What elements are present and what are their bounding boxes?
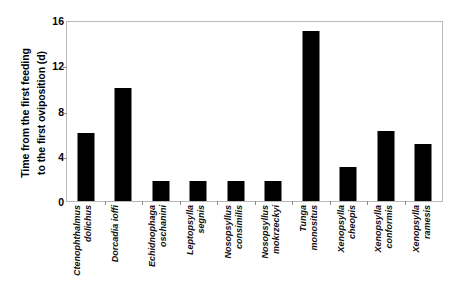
y-axis-tick-label: 0: [46, 197, 64, 207]
y-axis-title: Time from the first feeding to the first…: [4, 18, 48, 208]
x-axis-category-label-line: Echidnophaga: [147, 205, 158, 305]
x-axis-category-label-line: segnis: [196, 205, 207, 305]
x-axis-label-slot: Dorcadia ioffi: [104, 205, 142, 305]
bar[interactable]: [115, 88, 132, 201]
x-axis-category-label: Xenopsyllacheopis: [336, 205, 362, 305]
bar[interactable]: [340, 167, 357, 201]
x-axis-category-label-line: Xenopsylla: [336, 205, 347, 305]
bar[interactable]: [227, 181, 244, 201]
x-axis-category-label-line: monositus: [309, 205, 320, 305]
y-axis-tick-mark: [63, 67, 67, 68]
bar[interactable]: [77, 133, 94, 201]
bar[interactable]: [265, 181, 282, 201]
x-axis-category-label: Echidnophagaoschanini: [147, 205, 173, 305]
bar-chart-figure: Time from the first feeding to the first…: [0, 0, 470, 305]
x-axis-category-label-line: oschanini: [158, 205, 169, 305]
x-axis-category-label-line: consimilis: [234, 205, 245, 305]
x-axis-category-label-line: cheopis: [347, 205, 358, 305]
x-axis-category-label: Nosopsyllusconsimilis: [223, 205, 249, 305]
x-axis-label-slot: Xenopsyllaconformis: [368, 205, 406, 305]
x-axis-category-label-line: conformis: [384, 205, 395, 305]
bar-slot: [217, 22, 255, 201]
x-axis-label-slot: Tungamonositus: [292, 205, 330, 305]
y-axis-tick-label: 8: [46, 107, 64, 117]
x-axis-label-slot: Xenopsyllaramesis: [405, 205, 443, 305]
x-axis-category-label-line: dolichus: [83, 205, 94, 305]
x-axis-category-labels: CtenophthalmusdolichusDorcadia ioffiEchi…: [66, 205, 443, 305]
x-axis-category-label-line: Nosopsyllus: [223, 205, 234, 305]
bar[interactable]: [415, 144, 432, 201]
plot-area: [66, 21, 443, 202]
bar-slot: [367, 22, 405, 201]
x-axis-category-label: Nosopsyllusmokrzeckyi: [260, 205, 286, 305]
x-axis-category-label-line: Leptopsylla: [185, 205, 196, 305]
bar[interactable]: [377, 131, 394, 201]
x-axis-category-label-line: Dorcadia ioffi: [110, 205, 121, 305]
y-axis-tick-mark: [63, 158, 67, 159]
bar-slot: [105, 22, 143, 201]
y-axis-tick-label: 4: [46, 152, 64, 162]
y-axis-tick-label: 16: [46, 16, 64, 26]
x-axis-category-label-line: ramesis: [422, 205, 433, 305]
x-axis-category-label-line: Tunga: [298, 205, 309, 305]
x-axis-category-label-line: Ctenophthalmus: [72, 205, 83, 305]
x-axis-label-slot: Nosopsyllusmokrzeckyi: [255, 205, 293, 305]
y-axis-tick-mark: [63, 113, 67, 114]
bar[interactable]: [152, 181, 169, 201]
bar-series: [67, 22, 442, 201]
x-axis-category-label: Xenopsyllaramesis: [411, 205, 437, 305]
bar-slot: [142, 22, 180, 201]
x-axis-category-label-line: mokrzeckyi: [271, 205, 282, 305]
x-axis-category-label: Ctenophthalmusdolichus: [72, 205, 98, 305]
x-axis-label-slot: Xenopsyllacheopis: [330, 205, 368, 305]
bar[interactable]: [190, 181, 207, 201]
bar-slot: [67, 22, 105, 201]
x-axis-category-label-line: Nosopsyllus: [260, 205, 271, 305]
y-axis-tick-labels: 0481216: [44, 0, 64, 305]
x-axis-label-slot: Ctenophthalmusdolichus: [66, 205, 104, 305]
bar-slot: [405, 22, 443, 201]
y-axis-tick-label: 12: [46, 61, 64, 71]
bar-slot: [180, 22, 218, 201]
x-axis-label-slot: Nosopsyllusconsimilis: [217, 205, 255, 305]
x-axis-category-label: Leptopsyllasegnis: [185, 205, 211, 305]
bar-slot: [330, 22, 368, 201]
x-axis-category-label-line: Xenopsylla: [373, 205, 384, 305]
bar-slot: [255, 22, 293, 201]
x-axis-category-label: Dorcadia ioffi: [110, 205, 136, 305]
x-axis-label-slot: Leptopsyllasegnis: [179, 205, 217, 305]
x-axis-category-label: Xenopsyllaconformis: [373, 205, 399, 305]
bar[interactable]: [302, 31, 319, 201]
x-axis-category-label-line: Xenopsylla: [411, 205, 422, 305]
bar-slot: [292, 22, 330, 201]
x-axis-label-slot: Echidnophagaoschanini: [141, 205, 179, 305]
x-axis-category-label: Tungamonositus: [298, 205, 324, 305]
